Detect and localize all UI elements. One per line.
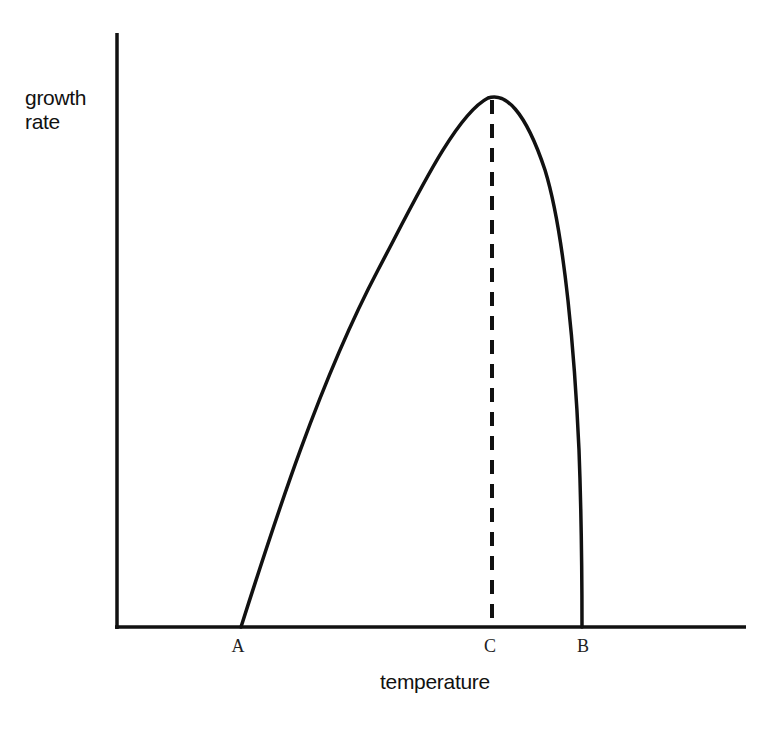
growth-rate-curve [241,97,582,627]
chart-plot [0,0,781,733]
tick-label-b: B [577,636,589,657]
y-axis-label-line2: rate [25,110,86,134]
y-axis-label-line1: growth [25,86,86,110]
chart-canvas: growth rate A C B temperature [0,0,781,733]
x-axis-label: temperature [380,670,490,694]
y-axis-label: growth rate [25,86,86,134]
tick-label-c: C [484,636,496,657]
tick-label-a: A [232,636,245,657]
